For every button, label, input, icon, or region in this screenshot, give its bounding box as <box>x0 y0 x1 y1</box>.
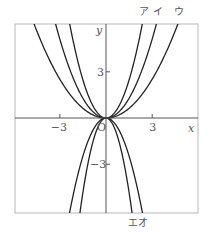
series-label: ア <box>139 6 149 17</box>
series-labels-group: アイウエオ <box>128 6 184 228</box>
parabola-chart: −333−3 x y O アイウエオ <box>0 0 209 232</box>
x-axis-label: x <box>188 122 195 135</box>
y-axis-label: y <box>95 24 103 37</box>
origin-label: O <box>97 121 106 134</box>
x-tick-label: 3 <box>149 121 156 134</box>
series-label: イ <box>153 6 163 17</box>
y-tick-label: 3 <box>97 66 104 79</box>
series-label: エ <box>128 217 138 228</box>
x-tick-label: −3 <box>51 121 67 134</box>
y-tick-label: −3 <box>90 158 106 171</box>
series-label: オ <box>138 217 148 228</box>
series-label: ウ <box>174 6 184 17</box>
